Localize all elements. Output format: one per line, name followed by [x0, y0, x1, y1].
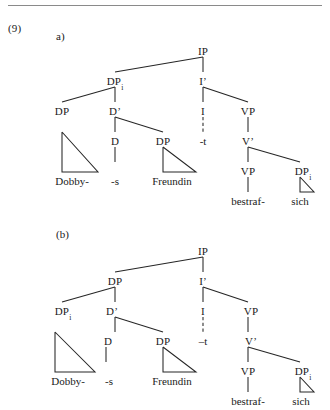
tree-a-node-i-bar: I’ — [199, 76, 207, 87]
tree-a-node-d-head: D — [111, 136, 119, 147]
tree-a-node-ip: IP — [198, 46, 208, 57]
tree-b-leaf-freundin: Freundin — [152, 376, 192, 387]
tree-a-node-vp-upper: VP — [241, 106, 255, 117]
tree-b-leaf-sich: sich — [292, 396, 310, 407]
tree-b-node-i-bar: I’ — [199, 276, 207, 287]
example-page: (9) a) IP DPi I’ DP D’ I — [0, 0, 330, 410]
tree-a-leaf-trace: -t — [200, 136, 207, 147]
tree-b-leaf-dobby: Dobby- — [51, 376, 85, 387]
tree-b-leaf-bestraf: bestraf- — [231, 396, 265, 407]
tree-b-node-dp-spec: DPi — [55, 306, 71, 317]
tree-a-node-dp-comp: DP — [156, 136, 170, 147]
tree-b-node-i-head: I — [201, 306, 205, 317]
tree-a-node-dp-refl: DPi — [295, 166, 311, 177]
tree-b-node-v-bar: V’ — [245, 336, 257, 347]
tree-b-node-d-bar: D’ — [106, 306, 118, 317]
tree-a-node-v-bar: V’ — [242, 136, 254, 147]
tree-b-node-dp-refl: DPi — [295, 366, 311, 377]
tree-b-node-d-head: D — [104, 336, 112, 347]
tree-a-leaf-dobby: Dobby- — [55, 176, 89, 187]
tree-a-node-dp-top: DPi — [107, 76, 123, 87]
tree-a-leaf-s: -s — [111, 176, 119, 187]
tree-b-leaf-trace: –t — [199, 336, 208, 347]
tree-b-node-dp-top: DP — [108, 276, 122, 287]
tree-b-leaf-s: -s — [105, 376, 113, 387]
tree-a-node-i-head: I — [201, 106, 205, 117]
tree-a-leaf-freundin: Freundin — [152, 176, 192, 187]
tree-b-node-dp-comp: DP — [156, 336, 170, 347]
tree-b-node-vp-lower: VP — [241, 366, 255, 377]
tree-a-node-dp-spec: DP — [55, 106, 69, 117]
tree-b-node-vp-upper: VP — [244, 306, 258, 317]
tree-b-node-ip: IP — [198, 246, 208, 257]
tree-a-node-d-bar: D’ — [109, 106, 121, 117]
tree-a-node-vp-lower: VP — [241, 166, 255, 177]
